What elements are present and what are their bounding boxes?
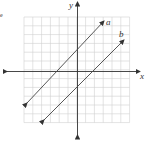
line-a — [27, 21, 104, 103]
x-axis-label: x — [139, 71, 144, 81]
coordinate-plane: y x a b e — [0, 0, 147, 141]
problem-marker: e — [0, 12, 3, 18]
line-b-label: b — [119, 29, 124, 39]
y-axis-label: y — [68, 0, 73, 10]
line-a-label: a — [106, 17, 111, 27]
grid — [24, 17, 130, 123]
